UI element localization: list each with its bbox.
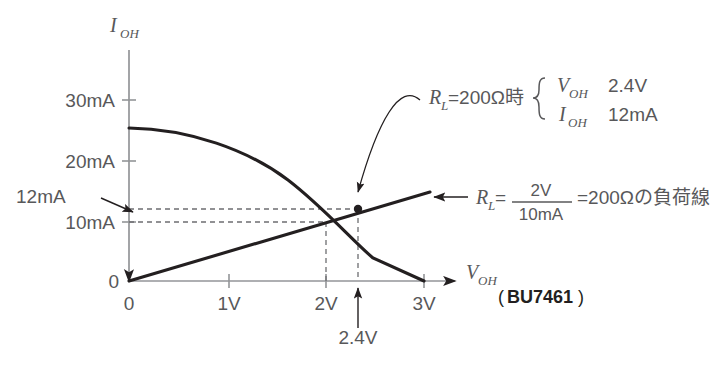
loadline-denominator: 10mA [519, 205, 564, 224]
y-tick-label-30ma: 30mA [65, 90, 115, 111]
x-axis-subscript: OH [478, 273, 497, 288]
figure-container: I OH V OH 30mA 20mA 10mA 0 0 1V 2V 3V 12… [0, 0, 724, 372]
loadline-result: =200Ωの負荷線 [577, 187, 710, 208]
part-number-group: ( BU7461 ) [498, 287, 584, 307]
voh-subscript: OH [569, 86, 588, 101]
x-tick-label-1v: 1V [217, 293, 241, 314]
y-axis-label: I OH [109, 14, 139, 41]
annotation-top-symbol: R [428, 86, 441, 108]
loadline-equals: = [495, 187, 506, 208]
output-characteristic-chart: I OH V OH 30mA 20mA 10mA 0 0 1V 2V 3V 12… [0, 0, 724, 372]
y-axis-symbol: I [109, 14, 118, 36]
ioh-value: 12mA [608, 104, 658, 125]
callout-2p4v-label: 2.4V [338, 327, 377, 348]
x-tick-label-3v: 3V [412, 293, 436, 314]
callout-12ma-label: 12mA [16, 186, 66, 207]
y-axis-subscript: OH [120, 26, 139, 41]
load-line [129, 192, 430, 281]
loadline-symbol: R [475, 186, 488, 208]
y-tick-label-10ma: 10mA [65, 212, 115, 233]
ioh-subscript: OH [568, 115, 587, 130]
ioh-symbol: I [558, 103, 567, 125]
part-number-close-paren: ) [578, 287, 584, 307]
x-tick-label-0: 0 [124, 293, 135, 314]
annotation-loadline: R L = 2V 10mA =200Ωの負荷線 [475, 181, 710, 224]
annotation-top-arrow [358, 96, 420, 192]
annotation-top-value: =200Ω時 [448, 87, 524, 108]
voh-value: 2.4V [608, 75, 647, 96]
loadline-subscript: L [487, 198, 495, 213]
annotation-top: R L =200Ω時 V OH 2.4V I OH 12mA [428, 74, 658, 130]
part-number-open-paren: ( [498, 287, 504, 307]
y-tick-label-20ma: 20mA [65, 151, 115, 172]
loadline-numerator: 2V [531, 181, 552, 200]
operating-point-marker [354, 205, 362, 213]
axis-group [122, 50, 455, 288]
y-tick-label-0: 0 [108, 271, 119, 292]
annotation-top-row-ioh: I OH 12mA [558, 103, 658, 130]
x-axis-label: V OH [466, 261, 497, 288]
x-tick-label-2v: 2V [314, 293, 338, 314]
annotation-top-subscript: L [440, 98, 448, 113]
annotation-top-row-voh: V OH 2.4V [557, 74, 647, 101]
part-number-label: BU7461 [507, 287, 573, 307]
characteristic-curve [129, 128, 424, 281]
brace-icon [533, 78, 545, 119]
